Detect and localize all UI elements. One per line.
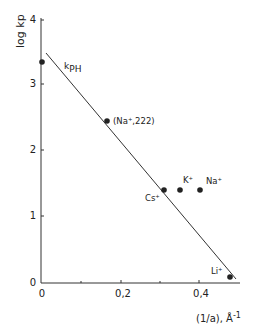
- point-na222: [104, 118, 110, 124]
- label-li: Li⁺: [211, 266, 223, 276]
- point-cs: [161, 187, 167, 193]
- y-tick-2: 2: [30, 144, 36, 155]
- fit-line-label: kPH: [64, 61, 81, 74]
- point-origin: [39, 59, 45, 65]
- y-tick-1: 1: [30, 210, 36, 221]
- label-na222: (Na⁺,222): [113, 116, 155, 126]
- x-tick-0.4: 0,4: [193, 288, 209, 299]
- y-axis-label: log kp: [14, 14, 27, 48]
- point-k: [177, 187, 183, 193]
- label-cs: Cs⁺: [145, 193, 160, 203]
- label-na: Na⁺: [206, 176, 222, 186]
- x-tick-0.2: 0,2: [115, 288, 131, 299]
- label-k: K⁺: [183, 175, 193, 185]
- chart: 4 3 2 1 0 0 0,2 0,4 log kp (1/a), Å-1 kP…: [0, 0, 263, 331]
- y-tick-3: 3: [30, 78, 36, 89]
- y-tick-0: 0: [30, 277, 36, 288]
- fit-line: [46, 53, 236, 279]
- x-tick-0: 0: [39, 288, 45, 299]
- x-axis-label: (1/a), Å-1: [196, 311, 241, 324]
- point-na: [197, 187, 203, 193]
- y-tick-4: 4: [30, 14, 36, 25]
- point-li: [227, 274, 233, 280]
